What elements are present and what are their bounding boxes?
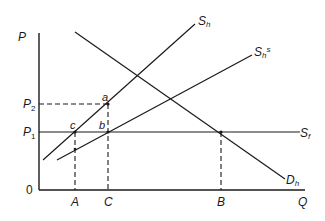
intersection-marker: [219, 130, 222, 133]
origin-label: 0: [26, 183, 33, 197]
point-a-label: a: [102, 91, 108, 103]
point-b-label: b: [99, 119, 105, 131]
subsidized-at-a-marker: [74, 148, 77, 151]
point-c-label: c: [70, 119, 76, 131]
foreign-supply-label: Sf: [300, 126, 311, 141]
y-axis-label: P: [18, 30, 26, 44]
quantity-c-label: C: [104, 195, 113, 209]
home-demand-label: Dh: [286, 173, 300, 188]
point-b-marker: [106, 130, 109, 133]
subsidized-home-supply-curve: [57, 55, 252, 160]
home-supply-curve: [43, 24, 195, 160]
x-axis-label: Q: [298, 195, 307, 209]
quantity-b-label: B: [217, 195, 225, 209]
economics-diagram: P Q 0 P2 P1 A C B Sh Shs Sf Dh a b c: [0, 0, 325, 221]
quantity-a-label: A: [70, 195, 79, 209]
subsidized-home-supply-label: Shs: [254, 45, 270, 60]
p1-label: P1: [23, 125, 36, 141]
home-supply-label: Sh: [198, 14, 211, 29]
p2-label: P2: [23, 97, 36, 113]
